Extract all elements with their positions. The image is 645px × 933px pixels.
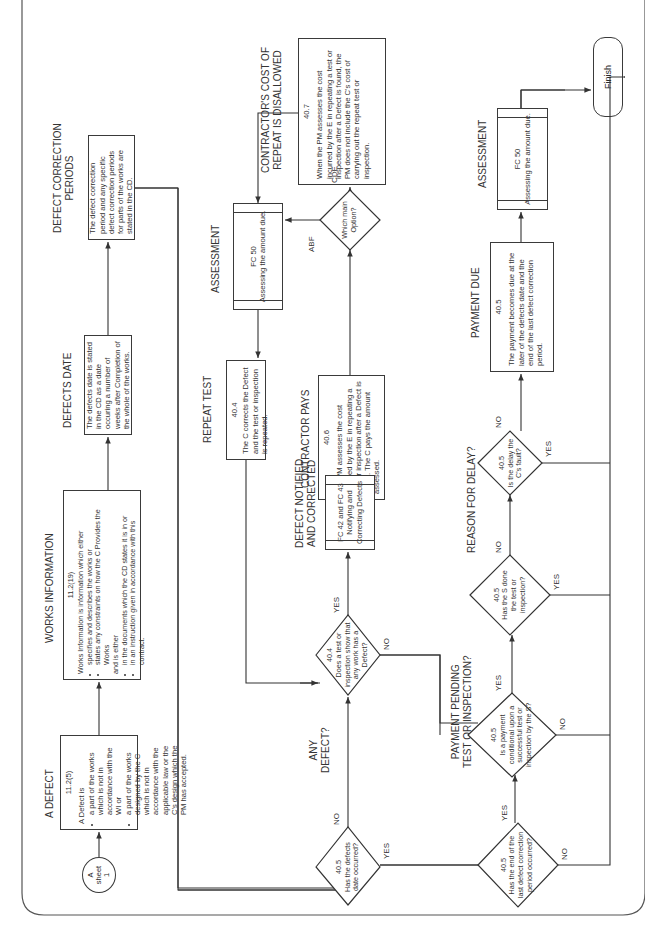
label-no: NO: [558, 718, 567, 730]
decision-delay-fault: 40.5 Is the delay the C's fault?: [496, 438, 526, 488]
label-yes: YES: [552, 574, 561, 590]
decision-any-defect: 40.4 Does a test or inspection show that…: [326, 622, 370, 688]
decision-supervisor-done: 40.5 Has the S done the test or inspecti…: [492, 565, 528, 625]
label-no: NO: [332, 813, 341, 825]
label-no: NO: [560, 848, 569, 860]
label-yes: YES: [500, 805, 509, 821]
flowchart-canvas: A sheet 1 A DEFECT WORKS INFORMATION DEF…: [0, 0, 645, 933]
label-yes: YES: [494, 675, 503, 691]
label-yes: YES: [544, 441, 553, 457]
decision-last-correction-period: 40.5 Has the end of the last defect corr…: [494, 831, 540, 899]
decision-shapes: [0, 0, 645, 933]
decision-main-option: Which main Option?: [335, 197, 365, 243]
label-no: NO: [494, 416, 503, 428]
label-cde: CDE: [330, 166, 339, 183]
label-no: NO: [494, 541, 503, 553]
label-no: NO: [382, 638, 391, 650]
decision-defects-date-occurred: 40.5 Has the defects date occurred?: [328, 837, 368, 897]
label-yes: YES: [382, 843, 391, 859]
decision-payment-conditional: 40.5 Is a payment conditional upon a suc…: [484, 701, 540, 769]
label-yes: YES: [332, 597, 341, 613]
label-abf: ABF: [307, 236, 316, 252]
